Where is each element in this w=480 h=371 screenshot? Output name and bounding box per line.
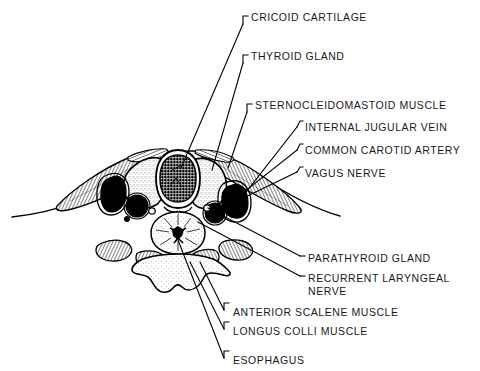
carotid-artery-left xyxy=(124,193,150,219)
label-sternocleidomastoid-muscle: STERNOCLEIDOMASTOID MUSCLE xyxy=(255,99,446,112)
label-recurrent-laryngeal-nerve: RECURRENT LARYNGEAL xyxy=(308,272,450,285)
label-cricoid-cartilage: CRICOID CARTILAGE xyxy=(251,11,367,24)
label-longus-colli-muscle: LONGUS COLLI MUSCLE xyxy=(233,325,368,338)
label-vagus-nerve: VAGUS NERVE xyxy=(305,167,386,180)
label-parathyroid-gland: PARATHYROID GLAND xyxy=(308,252,431,265)
esophagus-shape xyxy=(151,212,205,254)
label-esophagus: ESOPHAGUS xyxy=(233,354,304,367)
label-internal-jugular-vein: INTERNAL JUGULAR VEIN xyxy=(305,121,447,134)
label-anterior-scalene-muscle: ANTERIOR SCALENE MUSCLE xyxy=(233,306,399,319)
figure-page: CRICOID CARTILAGE THYROID GLAND STERNOCL… xyxy=(0,0,480,371)
label-thyroid-gland: THYROID GLAND xyxy=(251,50,345,63)
label-common-carotid-artery: COMMON CAROTID ARTERY xyxy=(305,144,460,157)
label-recurrent-laryngeal-nerve-line2: NERVE xyxy=(308,285,347,298)
vertebral-body xyxy=(132,254,230,292)
